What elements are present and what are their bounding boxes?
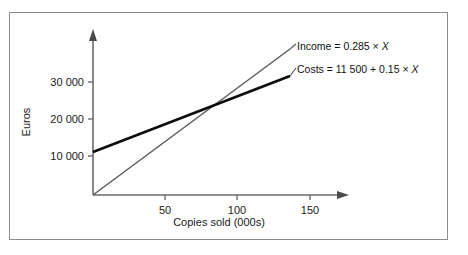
x-axis-arrow-icon [337,191,349,199]
annotation-income-variable: X [382,40,389,52]
annotation-costs-text: Costs = 11 500 + 0.15 × [297,63,412,75]
series-line-costs [93,76,290,152]
y-axis-arrow-icon [89,29,97,41]
annotation-income: Income = 0.285 × X [297,41,389,52]
annotation-income-text: Income = 0.285 × [297,40,382,52]
y-tick-label-10000: 10 000 [14,151,84,162]
x-tick-label-50: 50 [159,205,171,216]
y-tick-label-30000: 30 000 [14,77,84,88]
x-tick-label-150: 150 [301,205,319,216]
y-axis-title: Euros [20,108,32,137]
annotation-leader-income [290,44,296,49]
annotation-leader-costs [290,68,296,76]
series-line-income [93,49,290,195]
annotation-costs: Costs = 11 500 + 0.15 × X [297,64,419,75]
x-axis-title: Copies sold (000s) [173,216,265,228]
annotation-costs-variable: X [412,63,419,75]
chart-figure: 30 000 20 000 10 000 50 100 150 Euros Co… [0,0,468,255]
x-tick-label-100: 100 [228,205,246,216]
